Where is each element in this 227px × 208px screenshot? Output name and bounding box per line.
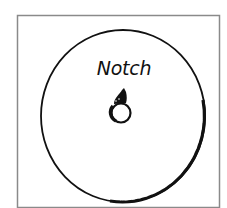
notch-icon [111,88,131,123]
disc-diagram: Notch [0,0,227,208]
disc-rim-texture [120,120,202,200]
notch-highlight [115,100,117,102]
diagram-canvas [0,0,227,208]
notch-highlight [118,98,120,100]
notch-label: Notch [84,57,164,79]
